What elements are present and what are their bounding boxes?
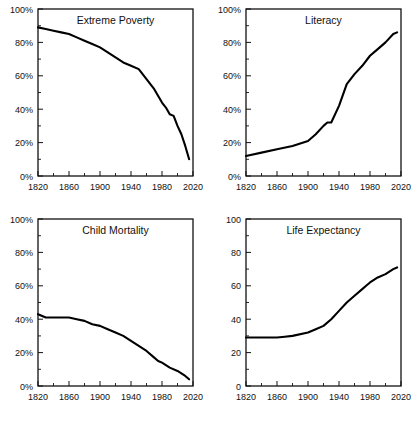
- data-series-line: [38, 314, 189, 379]
- y-axis-tick-label: 60%: [223, 71, 241, 81]
- x-axis-tick-label: 1860: [267, 182, 287, 192]
- x-axis-tick-label: 1940: [121, 392, 141, 402]
- y-axis-tick-label: 60%: [15, 71, 33, 81]
- y-axis-tick-label: 60: [231, 281, 241, 291]
- x-axis-tick-label: 2020: [183, 392, 203, 402]
- data-series-line: [38, 27, 189, 159]
- chart-panel-child-mortality: 1820186019001940198020200%20%40%60%80%10…: [0, 210, 209, 422]
- y-axis-tick-label: 80%: [223, 38, 241, 48]
- plot-area: 182018601900194019802020020406080100Life…: [208, 210, 417, 422]
- y-axis-tick-label: 100%: [10, 5, 33, 15]
- x-axis-tick-label: 1980: [152, 182, 172, 192]
- x-axis-tick-label: 1900: [298, 182, 318, 192]
- x-axis-tick-label: 1940: [329, 182, 349, 192]
- y-axis-tick-label: 40: [231, 315, 241, 325]
- x-axis-tick-label: 1820: [28, 182, 48, 192]
- x-axis-tick-label: 1860: [59, 182, 79, 192]
- x-axis-tick-label: 1860: [59, 392, 79, 402]
- plot-frame: [38, 9, 193, 176]
- y-axis-tick-label: 80%: [15, 248, 33, 258]
- y-axis-tick-label: 0%: [20, 382, 33, 392]
- y-axis-tick-label: 20%: [223, 138, 241, 148]
- plot-frame: [38, 219, 193, 386]
- y-axis-tick-label: 40%: [15, 315, 33, 325]
- panel-title: Extreme Poverty: [77, 14, 155, 26]
- x-axis-tick-label: 1860: [267, 392, 287, 402]
- chart-panel-extreme-poverty: 1820186019001940198020200%20%40%60%80%10…: [0, 0, 209, 200]
- panel-title: Literacy: [305, 14, 343, 26]
- x-axis-tick-label: 1940: [329, 392, 349, 402]
- x-axis-tick-label: 2020: [391, 392, 411, 402]
- y-axis-tick-label: 80: [231, 248, 241, 258]
- x-axis-tick-label: 1900: [298, 392, 318, 402]
- y-axis-tick-label: 0%: [20, 172, 33, 182]
- x-axis-tick-label: 1980: [360, 392, 380, 402]
- x-axis-tick-label: 1980: [152, 392, 172, 402]
- x-axis-tick-label: 2020: [183, 182, 203, 192]
- x-axis-tick-label: 1900: [90, 392, 110, 402]
- y-axis-tick-label: 100%: [10, 215, 33, 225]
- data-series-line: [246, 267, 397, 337]
- data-series-line: [246, 32, 397, 156]
- y-axis-tick-label: 60%: [15, 281, 33, 291]
- plot-frame: [246, 219, 401, 386]
- y-axis-tick-label: 20%: [15, 138, 33, 148]
- y-axis-tick-label: 80%: [15, 38, 33, 48]
- y-axis-tick-label: 20%: [15, 348, 33, 358]
- y-axis-tick-label: 0%: [228, 172, 241, 182]
- x-axis-tick-label: 1820: [236, 182, 256, 192]
- x-axis-tick-label: 1940: [121, 182, 141, 192]
- x-axis-tick-label: 1980: [360, 182, 380, 192]
- x-axis-tick-label: 1900: [90, 182, 110, 192]
- chart-panel-literacy: 1820186019001940198020200%20%40%60%80%10…: [208, 0, 417, 200]
- plot-area: 1820186019001940198020200%20%40%60%80%10…: [208, 0, 417, 200]
- plot-area: 1820186019001940198020200%20%40%60%80%10…: [0, 0, 209, 200]
- plot-area: 1820186019001940198020200%20%40%60%80%10…: [0, 210, 209, 422]
- y-axis-tick-label: 40%: [15, 105, 33, 115]
- x-axis-tick-label: 1820: [28, 392, 48, 402]
- panel-title: Life Expectancy: [286, 224, 361, 236]
- chart-panel-life-expectancy: 182018601900194019802020020406080100Life…: [208, 210, 417, 422]
- y-axis-tick-label: 100%: [218, 5, 241, 15]
- x-axis-tick-label: 1820: [236, 392, 256, 402]
- y-axis-tick-label: 40%: [223, 105, 241, 115]
- y-axis-tick-label: 0: [236, 382, 241, 392]
- y-axis-tick-label: 100: [226, 215, 241, 225]
- x-axis-tick-label: 2020: [391, 182, 411, 192]
- panel-title: Child Mortality: [82, 224, 149, 236]
- chart-grid: 1820186019001940198020200%20%40%60%80%10…: [0, 0, 417, 422]
- y-axis-tick-label: 20: [231, 348, 241, 358]
